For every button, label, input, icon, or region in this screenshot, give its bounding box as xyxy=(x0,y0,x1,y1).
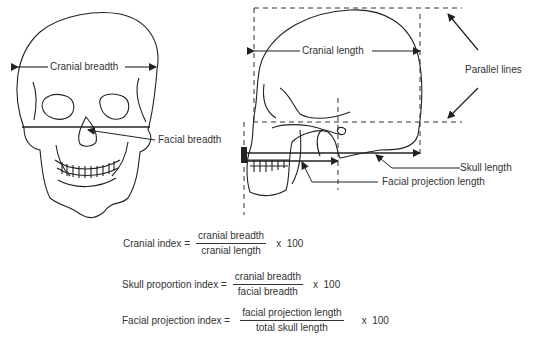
multiplier: x 100 xyxy=(362,315,389,326)
facial-projection-length-label: Facial projection length xyxy=(382,176,485,188)
denominator: total skull length xyxy=(254,321,330,334)
facial-breadth-label: Facial breadth xyxy=(158,134,221,146)
fraction: cranial breadth facial breadth xyxy=(233,271,303,298)
cranial-index-formula: Cranial index = cranial breadth cranial … xyxy=(123,230,303,257)
skull-length-label: Skull length xyxy=(460,162,512,174)
fraction: cranial breadth cranial length xyxy=(196,230,266,257)
multiplier: x 100 xyxy=(276,238,303,249)
denominator: facial breadth xyxy=(236,285,300,298)
parallel-lines-label: Parallel lines xyxy=(465,64,522,76)
facial-projection-index-formula: Facial projection index = facial project… xyxy=(122,307,389,334)
formula-name: Facial projection index = xyxy=(122,315,230,326)
front-skull-drawing xyxy=(17,13,158,218)
numerator: cranial breadth xyxy=(196,230,266,244)
facial-breadth-leader xyxy=(88,130,155,140)
fraction: facial projection length total skull len… xyxy=(240,307,344,334)
multiplier: x 100 xyxy=(313,279,340,290)
formula-name: Skull proportion index = xyxy=(122,279,227,290)
skull-proportion-index-formula: Skull proportion index = cranial breadth… xyxy=(122,271,340,298)
cranial-breadth-label: Cranial breadth xyxy=(50,61,118,73)
cranial-length-label: Cranial length xyxy=(302,45,364,57)
numerator: facial projection length xyxy=(240,307,344,321)
formula-name: Cranial index = xyxy=(123,238,190,249)
numerator: cranial breadth xyxy=(233,271,303,285)
denominator: cranial length xyxy=(199,244,262,257)
